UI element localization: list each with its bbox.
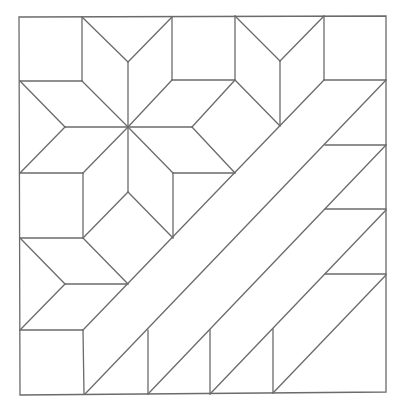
pattern-line (280, 16, 324, 61)
pattern-line (235, 16, 280, 61)
pattern-line (128, 192, 173, 238)
pattern-line (20, 238, 65, 284)
pattern-line (83, 330, 84, 394)
pattern-line (20, 127, 65, 173)
pattern-line (128, 17, 172, 62)
pattern-line (148, 145, 386, 394)
quilt-pattern-drawing (0, 0, 402, 410)
pattern-line (273, 275, 386, 393)
pattern-line (82, 81, 128, 127)
quilt-diagram: Quilt block pattern: eight-pointed star … (0, 0, 402, 410)
pattern-line (192, 127, 235, 173)
pattern-line (83, 192, 128, 238)
pattern-lines (20, 16, 386, 394)
pattern-line (82, 17, 128, 62)
pattern-line (235, 80, 280, 126)
pattern-line (83, 238, 128, 284)
pattern-line (20, 81, 65, 127)
pattern-line (128, 127, 173, 173)
pattern-line (83, 127, 128, 173)
pattern-line (20, 284, 65, 330)
pattern-line (192, 80, 235, 127)
pattern-line (128, 80, 172, 127)
